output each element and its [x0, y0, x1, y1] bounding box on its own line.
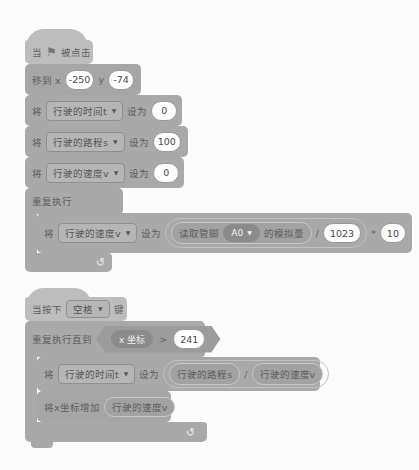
read-pin-label: 读取管脚 — [179, 226, 219, 240]
green-flag-icon: ⚑ — [46, 46, 57, 58]
repeat-until-bottom-arm: ↻ — [25, 422, 207, 442]
loop-arrow-icon: ↻ — [185, 426, 196, 438]
divide-expression[interactable]: 读取管脚 A0 ▼ 的模拟量 / 1023 — [165, 218, 367, 248]
when-label: 当 — [32, 45, 42, 59]
distance-variable-pill[interactable]: 行驶的路程s — [169, 363, 240, 385]
repeat-until-block[interactable]: 重复执行直到 x 坐标 > 241 — [25, 321, 205, 357]
variable-name: 行驶的时间t — [53, 104, 107, 118]
y-input[interactable]: -74 — [108, 70, 134, 90]
variable-dropdown-speed[interactable]: 行驶的速度v ▼ — [46, 163, 125, 183]
forever-label: 重复执行 — [32, 194, 72, 208]
pin-name: A0 — [231, 228, 243, 238]
set-label: 将 — [44, 226, 54, 240]
divisor-input[interactable]: 1023 — [323, 223, 361, 243]
when-flag-clicked-block[interactable]: 当 ⚑ 被点击 — [25, 29, 93, 64]
bottom-connector-nub — [31, 442, 53, 448]
set-time-expression-block[interactable]: 将 行驶的时间t ▼ 设为 行驶的路程s / 行驶的速度v — [37, 357, 320, 391]
set-label: 将 — [32, 104, 42, 118]
to-label: 设为 — [129, 166, 149, 180]
to-label: 设为 — [127, 104, 147, 118]
variable-dropdown-distance[interactable]: 行驶的路程s ▼ — [46, 132, 125, 152]
variable-dropdown-speed[interactable]: 行驶的速度v ▼ — [58, 223, 137, 243]
key-name: 空格 — [73, 302, 93, 316]
x-position-label: x 坐标 — [119, 333, 145, 346]
divide-expression[interactable]: 行驶的路程s / 行驶的速度v — [163, 360, 329, 388]
comparison-value-input[interactable]: 241 — [173, 329, 205, 349]
key-dropdown[interactable]: 空格 ▼ — [66, 300, 110, 318]
x-position-reporter[interactable]: x 坐标 — [111, 330, 153, 348]
goto-y-label: y — [98, 74, 104, 85]
chevron-down-icon: ▼ — [247, 230, 252, 236]
x-input[interactable]: -250 — [65, 70, 95, 90]
variable-dropdown-time[interactable]: 行驶的时间t ▼ — [46, 101, 123, 121]
variable-name: 行驶的时间t — [65, 367, 119, 381]
set-label: 将 — [32, 166, 42, 180]
divide-operator: / — [316, 228, 319, 239]
clicked-label: 被点击 — [61, 45, 91, 59]
multiplier-input[interactable]: 10 — [380, 223, 406, 243]
variable-name: 行驶的速度v — [53, 166, 109, 180]
condition-hexagon[interactable]: x 坐标 > 241 — [96, 326, 220, 353]
greater-than-operator: > — [159, 334, 167, 345]
set-label: 将 — [32, 135, 42, 149]
chevron-down-icon: ▼ — [112, 108, 117, 114]
loop-arrow-icon: ↻ — [95, 256, 106, 268]
chevron-down-icon: ▼ — [126, 230, 131, 236]
chevron-down-icon: ▼ — [124, 371, 129, 377]
set-label: 将 — [44, 367, 54, 381]
speed-variable-pill[interactable]: 行驶的速度v — [104, 397, 176, 417]
key-suffix-label: 键 — [114, 302, 124, 316]
repeat-until-label: 重复执行直到 — [32, 332, 92, 346]
speed-variable-pill[interactable]: 行驶的速度v — [252, 363, 324, 385]
multiply-operator: * — [371, 228, 376, 239]
forever-left-arm — [25, 213, 37, 254]
script-area: 当 ⚑ 被点击 移到 x -250 y -74 将 行驶的时间t ▼ 设为 0 … — [0, 0, 419, 470]
variable-name: 行驶的速度v — [112, 400, 168, 414]
divide-operator: / — [244, 369, 247, 380]
set-speed-expression-block[interactable]: 将 行驶的速度v ▼ 设为 读取管脚 A0 ▼ 的模拟量 / 1023 * 10 — [37, 213, 412, 253]
goto-xy-block[interactable]: 移到 x -250 y -74 — [25, 64, 141, 95]
to-label: 设为 — [129, 135, 149, 149]
value-input[interactable]: 0 — [153, 163, 179, 183]
variable-name: 行驶的速度v — [260, 367, 316, 381]
variable-name: 行驶的路程s — [177, 367, 232, 381]
chevron-down-icon: ▼ — [98, 306, 103, 312]
set-speed-block[interactable]: 将 行驶的速度v ▼ 设为 0 — [25, 157, 184, 188]
goto-x-label: 移到 x — [32, 73, 61, 87]
when-key-pressed-block[interactable]: 当按下 空格 ▼ 键 — [25, 288, 127, 321]
value-input[interactable]: 100 — [153, 132, 181, 152]
forever-bottom-arm: ↻ — [25, 253, 112, 272]
change-x-label: 将x坐标增加 — [44, 400, 100, 414]
chevron-down-icon: ▼ — [114, 170, 119, 176]
read-analog-pin-reporter[interactable]: 读取管脚 A0 ▼ 的模拟量 — [171, 222, 312, 244]
pin-dropdown[interactable]: A0 ▼ — [223, 224, 260, 242]
variable-name: 行驶的路程s — [53, 135, 108, 149]
value-input[interactable]: 0 — [151, 101, 177, 121]
to-label: 设为 — [139, 367, 159, 381]
chevron-down-icon: ▼ — [113, 139, 118, 145]
variable-dropdown-time[interactable]: 行驶的时间t ▼ — [58, 364, 135, 384]
set-distance-block[interactable]: 将 行驶的路程s ▼ 设为 100 — [25, 126, 188, 157]
forever-block[interactable]: 重复执行 — [25, 188, 123, 214]
when-pressed-label: 当按下 — [32, 302, 62, 316]
analog-label: 的模拟量 — [264, 226, 304, 240]
to-label: 设为 — [141, 226, 161, 240]
repeat-until-left-arm — [25, 356, 37, 423]
variable-name: 行驶的速度v — [65, 226, 121, 240]
set-time-block[interactable]: 将 行驶的时间t ▼ 设为 0 — [25, 95, 182, 126]
change-x-block[interactable]: 将x坐标增加 行驶的速度v — [37, 391, 171, 422]
